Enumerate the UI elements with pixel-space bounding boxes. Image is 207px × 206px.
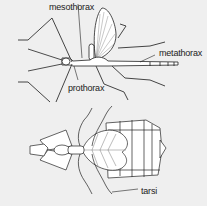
label-mesothorax: mesothorax [49, 2, 94, 12]
label-tarsi: tarsi [141, 186, 157, 196]
label-prothorax: prothorax [68, 83, 104, 93]
insect-diagram [0, 0, 207, 206]
leaf-insect-figure [30, 106, 166, 194]
label-metathorax: metathorax [159, 48, 202, 58]
